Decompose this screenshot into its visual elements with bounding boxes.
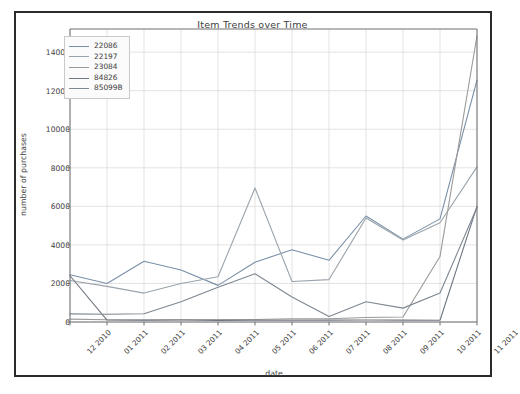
legend-swatch-icon [69, 67, 89, 68]
series-line-23084 [70, 36, 477, 320]
legend-item-84826: 84826 [69, 73, 123, 84]
legend-swatch-icon [69, 78, 89, 79]
series-line-22197 [70, 167, 477, 293]
legend-swatch-icon [69, 88, 89, 89]
series-line-22086 [70, 80, 477, 285]
chart-legend: 2208622197230848482685099B [64, 36, 130, 99]
series-line-85099B [70, 207, 477, 316]
legend-label: 22086 [94, 41, 118, 52]
legend-label: 85099B [94, 83, 123, 94]
legend-label: 84826 [94, 73, 118, 84]
legend-item-22197: 22197 [69, 52, 123, 63]
legend-item-22086: 22086 [69, 41, 123, 52]
legend-swatch-icon [69, 56, 89, 57]
legend-label: 23084 [94, 62, 118, 73]
legend-item-85099B: 85099B [69, 83, 123, 94]
legend-swatch-icon [69, 46, 89, 47]
legend-item-23084: 23084 [69, 62, 123, 73]
legend-label: 22197 [94, 52, 118, 63]
